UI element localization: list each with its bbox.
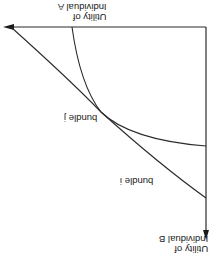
utility-possibility-diagram — [0, 0, 213, 257]
axis-label-utility-a: Utility of Individual A — [58, 2, 107, 22]
axis-label-b-line1: Utility of — [159, 244, 208, 254]
curve-label-bundle-j: bundle j — [64, 113, 97, 123]
axis-label-b-line2: Individual B — [159, 234, 208, 244]
axis-label-utility-b: Utility of Individual B — [159, 234, 208, 254]
curve-label-bundle-i: bundle i — [120, 176, 153, 186]
axis-label-a-line2: Individual A — [58, 2, 107, 12]
axis-a-arrowhead-icon — [3, 24, 14, 30]
axis-label-a-line1: Utility of — [58, 12, 107, 22]
curve-bundle-j — [72, 27, 206, 146]
curve-bundle-i — [12, 28, 206, 198]
